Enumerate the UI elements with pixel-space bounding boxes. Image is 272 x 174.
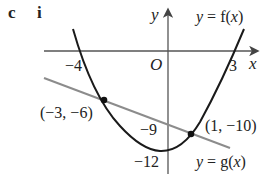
f-intercept-label: −12 bbox=[134, 154, 159, 170]
origin-label: O bbox=[150, 56, 162, 73]
graph-figure: c i y y = f(x) O x −4 3 (−3, −6) (1, −10… bbox=[0, 0, 272, 174]
intersection-point-a bbox=[101, 97, 108, 104]
graph-canvas bbox=[0, 0, 272, 174]
intersection-point-b bbox=[188, 131, 195, 138]
x-intercept-left-label: −4 bbox=[65, 58, 82, 74]
f-curve-label: y = f(x) bbox=[196, 9, 243, 25]
g-line-label: y = g(x) bbox=[196, 154, 246, 170]
part-label: c bbox=[8, 4, 16, 21]
point-a-label: (−3, −6) bbox=[40, 105, 93, 121]
x-axis-label: x bbox=[249, 55, 257, 72]
g-intercept-label: −9 bbox=[140, 122, 157, 138]
x-intercept-right-label: 3 bbox=[229, 58, 237, 74]
subpart-label: i bbox=[37, 4, 42, 21]
y-axis-label: y bbox=[151, 6, 159, 23]
point-b-label: (1, −10) bbox=[205, 118, 257, 134]
